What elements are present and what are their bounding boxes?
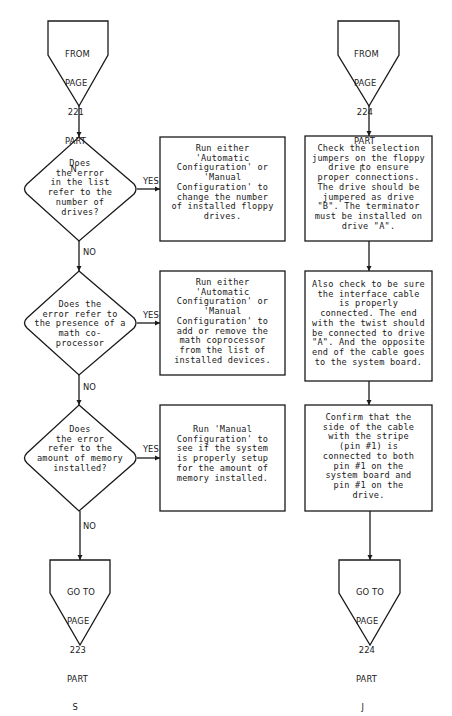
connector-line: 221	[65, 108, 90, 118]
decision-2-yes-label: YES	[143, 310, 159, 320]
decision-2-question: Does the error refer to the presence of …	[22, 300, 138, 349]
connector-line: GO TO	[356, 588, 384, 598]
action-2-text: Run either 'Automatic Configuration' or …	[160, 278, 285, 365]
step-2-text: Also check to be sure the interface cabl…	[305, 280, 432, 367]
connector-line: J	[356, 703, 384, 713]
end-connector-right-text: GO TO PAGE 224 PART J	[356, 569, 384, 716]
connector-line: PART	[67, 675, 95, 685]
decision-2-no-label: NO	[83, 382, 96, 392]
connector-line: PAGE	[354, 79, 379, 89]
connector-line: GO TO	[67, 588, 95, 598]
decision-1-yes-label: YES	[143, 176, 159, 186]
step-3-text: Confirm that the side of the cable with …	[305, 413, 432, 500]
connector-line: 223	[67, 646, 95, 656]
connector-line: PAGE	[67, 617, 95, 627]
step-1-text: Check the selection jumpers on the flopp…	[305, 144, 432, 231]
end-connector-left-text: GO TO PAGE 223 PART S	[67, 569, 95, 716]
decision-3-question: Does the error refer to the amount of me…	[24, 425, 136, 474]
action-1-text: Run either 'Automatic Configuration' or …	[160, 144, 285, 222]
decision-3-yes-label: YES	[143, 444, 159, 454]
connector-line: 224	[354, 108, 379, 118]
connector-line: PART	[356, 675, 384, 685]
connector-line: PAGE	[65, 79, 90, 89]
connector-line: 224	[356, 646, 384, 656]
decision-1-no-label: NO	[83, 247, 96, 257]
connector-line: S	[67, 703, 95, 713]
action-3-text: Run 'Manual Configuration' to see if the…	[160, 425, 285, 483]
connector-line: FROM	[354, 50, 379, 60]
decision-1-question: Does the error in the list refer to the …	[24, 159, 136, 217]
connector-line: PAGE	[356, 617, 384, 627]
connector-line: FROM	[65, 50, 90, 60]
decision-3-no-label: NO	[83, 521, 96, 531]
connector-line: PART	[65, 137, 90, 147]
